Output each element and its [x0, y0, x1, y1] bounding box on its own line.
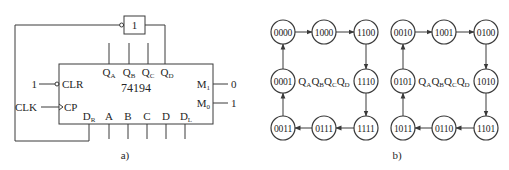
- state-node: 0010: [391, 20, 415, 44]
- svg-text:1101: 1101: [477, 123, 495, 134]
- state-node: 1010: [474, 69, 498, 93]
- pin-label-b: B: [124, 110, 131, 122]
- clk-label: CLK: [15, 101, 37, 113]
- state-variable-label: QAQBQCQD: [418, 75, 469, 89]
- circuit-diagram: 1 74194 QA QB QC QD 1 CLR CLK CP M1 0 M0: [15, 16, 237, 162]
- state-node: 0110: [432, 116, 456, 140]
- clr-value: 1: [32, 78, 38, 90]
- chip-label: 74194: [121, 81, 151, 95]
- state-node: 1101: [474, 116, 498, 140]
- pin-label-a: A: [105, 110, 113, 122]
- svg-text:1010: 1010: [477, 76, 496, 87]
- pin-label-m1: M1: [197, 78, 211, 92]
- svg-text:1001: 1001: [435, 27, 454, 38]
- m0-value: 1: [231, 97, 237, 109]
- svg-text:0110: 0110: [435, 123, 453, 134]
- m1-value: 0: [231, 78, 237, 90]
- state-cycle-1: 0000 1000 1100 1110 1111 0111 0011 0001 …: [271, 20, 378, 140]
- pin-label-qa: QA: [102, 66, 115, 80]
- pin-label-dr: DR: [83, 110, 96, 124]
- state-node: 0001: [271, 69, 295, 93]
- svg-text:0111: 0111: [315, 123, 333, 134]
- pin-label-cp: CP: [64, 101, 77, 113]
- svg-text:0000: 0000: [274, 27, 293, 38]
- caption-b: b): [392, 149, 402, 162]
- state-node: 1001: [432, 20, 456, 44]
- pin-label-d: D: [162, 110, 170, 122]
- state-diagram: 0000 1000 1100 1110 1111 0111 0011 0001 …: [271, 20, 498, 162]
- state-node: 0100: [474, 20, 498, 44]
- svg-text:0011: 0011: [274, 123, 292, 134]
- pin-label-qc: QC: [142, 66, 155, 80]
- svg-text:1011: 1011: [394, 123, 412, 134]
- clock-edge-icon: [59, 104, 63, 110]
- state-node: 1100: [354, 20, 378, 44]
- pin-label-qd: QD: [160, 66, 173, 80]
- state-variable-label: QAQBQCQD: [298, 75, 349, 89]
- svg-text:1110: 1110: [357, 76, 375, 87]
- svg-text:0101: 0101: [394, 76, 413, 87]
- state-node: 1110: [354, 69, 378, 93]
- pin-label-clr: CLR: [62, 78, 84, 90]
- pin-label-qb: QB: [123, 66, 136, 80]
- svg-text:0001: 0001: [274, 76, 293, 87]
- not-gate-label: 1: [132, 19, 138, 31]
- state-node: 0011: [271, 116, 295, 140]
- figure: 1 74194 QA QB QC QD 1 CLR CLK CP M1 0 M0: [0, 0, 509, 170]
- state-node: 0111: [312, 116, 336, 140]
- svg-text:1111: 1111: [357, 123, 375, 134]
- pin-label-m0: M0: [197, 97, 211, 111]
- state-node: 1111: [354, 116, 378, 140]
- pin-label-dl: DL: [180, 110, 192, 124]
- state-node: 0101: [391, 69, 415, 93]
- state-node: 1000: [312, 20, 336, 44]
- not-gate: 1: [120, 16, 145, 34]
- svg-text:1100: 1100: [357, 27, 375, 38]
- state-node: 1011: [391, 116, 415, 140]
- clr-inversion-bubble-icon: [55, 82, 59, 86]
- svg-text:0100: 0100: [477, 27, 496, 38]
- state-node: 0000: [271, 20, 295, 44]
- inversion-bubble-icon: [120, 23, 124, 27]
- svg-text:1000: 1000: [315, 27, 334, 38]
- state-cycle-2: 0010 1001 0100 1010 1101 0110 1011 0101 …: [391, 20, 498, 140]
- svg-text:0010: 0010: [394, 27, 413, 38]
- caption-a: a): [121, 149, 130, 162]
- pin-label-c: C: [143, 110, 150, 122]
